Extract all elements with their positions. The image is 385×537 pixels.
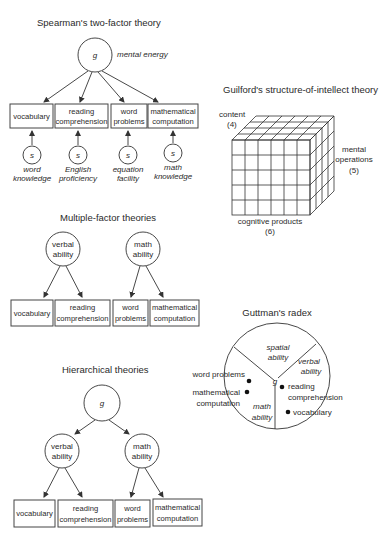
svg-text:word problems: word problems — [192, 370, 245, 379]
guilford-panel: Guilford's structure-of-intellect theory… — [219, 84, 378, 236]
svg-text:s: s — [171, 149, 175, 158]
g-factor-node: g — [78, 38, 112, 72]
svg-text:computation: computation — [152, 117, 193, 126]
sector-math-line2: ability — [252, 413, 273, 422]
svg-text:word: word — [120, 107, 137, 116]
operations-count: (5) — [349, 166, 359, 175]
svg-text:s: s — [126, 151, 130, 160]
spearman-box-reading-comprehension: reading comprehension — [55, 104, 108, 128]
svg-text:computation: computation — [157, 514, 198, 523]
svg-text:math: math — [134, 240, 152, 249]
sector-math-line1: math — [253, 402, 271, 411]
svg-text:mathematical: mathematical — [155, 503, 200, 512]
s-factor-math-knowledge: s math knowledge — [154, 131, 193, 181]
mental-energy-label: mental energy — [117, 50, 169, 59]
svg-text:English: English — [65, 165, 92, 174]
svg-text:comprehension: comprehension — [57, 314, 109, 323]
s-factor-word-knowledge: s word knowledge — [13, 131, 52, 183]
svg-text:proficiency: proficiency — [58, 174, 98, 183]
svg-text:s: s — [76, 151, 80, 160]
radex-point-word-problems: word problems — [192, 370, 252, 383]
svg-text:ability: ability — [133, 250, 153, 259]
h-verbal-ability-node: verbal ability — [45, 434, 79, 468]
content-label: content — [219, 110, 246, 119]
svg-text:mathematical: mathematical — [150, 107, 195, 116]
mf-box-vocabulary: vocabulary — [11, 300, 53, 326]
mf-box-reading-comprehension: reading comprehension — [55, 300, 110, 326]
svg-text:verbal: verbal — [51, 442, 73, 451]
mf-box-word-problems: word problems — [113, 300, 148, 326]
svg-text:vocabulary: vocabulary — [14, 309, 51, 318]
g-label: g — [93, 51, 98, 60]
operations-label-line2: operations — [335, 155, 372, 164]
s-factor-equation-facility: s equation facility — [113, 131, 144, 183]
svg-text:reading: reading — [70, 303, 95, 312]
multiple-factor-panel: Multiple-factor theories verbal ability … — [11, 212, 199, 326]
svg-text:reading: reading — [73, 504, 98, 513]
sector-spatial-line2: ability — [268, 353, 289, 362]
svg-text:equation: equation — [113, 165, 144, 174]
h-math-ability-node: math ability — [125, 434, 159, 468]
svg-text:verbal: verbal — [52, 240, 74, 249]
sector-spatial-line1: spatial — [266, 343, 289, 352]
mf-box-mathematical-computation: mathematical computation — [150, 300, 199, 326]
svg-text:vocabulary: vocabulary — [16, 509, 53, 518]
h-box-mathematical-computation: mathematical computation — [153, 499, 202, 526]
hierarchical-title: Hierarchical theories — [62, 364, 149, 375]
svg-text:ability: ability — [52, 452, 72, 461]
svg-text:s: s — [30, 151, 34, 160]
products-count: (6) — [265, 227, 275, 236]
guttman-panel: Guttman's radex g spatial ability verbal… — [192, 307, 343, 429]
svg-text:word: word — [121, 303, 138, 312]
svg-text:problems: problems — [113, 117, 144, 126]
svg-text:comprehension: comprehension — [60, 515, 112, 524]
spearman-box-word-problems: word problems — [111, 104, 147, 128]
svg-text:comprehension: comprehension — [56, 117, 108, 126]
svg-text:math: math — [133, 442, 151, 451]
guilford-title: Guilford's structure-of-intellect theory — [223, 84, 378, 95]
svg-text:reading: reading — [288, 382, 315, 391]
svg-text:computation: computation — [196, 399, 240, 408]
intelligence-theories-diagram: Spearman's two-factor theory g mental en… — [0, 0, 385, 537]
h-box-reading-comprehension: reading comprehension — [58, 500, 113, 527]
spearman-panel: Spearman's two-factor theory g mental en… — [10, 17, 198, 183]
sector-verbal-line1: verbal — [298, 357, 320, 366]
radex-point-vocabulary: vocabulary — [286, 408, 332, 417]
svg-text:g: g — [100, 399, 105, 408]
mf-verbal-ability-node: verbal ability — [46, 232, 80, 266]
s-factor-english-proficiency: s English proficiency — [58, 131, 98, 183]
svg-text:word: word — [23, 165, 41, 174]
svg-text:mathematical: mathematical — [152, 303, 197, 312]
svg-text:vocabulary: vocabulary — [293, 408, 332, 417]
svg-text:computation: computation — [154, 314, 195, 323]
svg-text:knowledge: knowledge — [154, 172, 193, 181]
svg-text:reading: reading — [69, 107, 94, 116]
svg-text:vocabulary: vocabulary — [13, 112, 50, 121]
spearman-box-vocabulary: vocabulary — [10, 104, 53, 128]
multiple-factor-title: Multiple-factor theories — [60, 212, 156, 223]
spearman-box-mathematical-computation: mathematical computation — [148, 104, 198, 128]
svg-text:word: word — [123, 504, 140, 513]
spearman-title: Spearman's two-factor theory — [37, 17, 161, 28]
guttman-title: Guttman's radex — [242, 307, 312, 318]
hierarchical-panel: Hierarchical theories g verbal ability m… — [14, 364, 202, 527]
svg-text:knowledge: knowledge — [13, 174, 52, 183]
svg-text:mathematical: mathematical — [192, 388, 240, 397]
h-box-word-problems: word problems — [115, 500, 150, 527]
radex-point-mathematical-computation: mathematical computation — [192, 388, 249, 408]
svg-text:ability: ability — [132, 452, 152, 461]
structure-of-intellect-cube — [232, 116, 334, 215]
svg-text:math: math — [164, 163, 182, 172]
svg-text:facility: facility — [117, 174, 140, 183]
h-g-node: g — [84, 385, 120, 421]
radex-point-reading-comprehension: reading comprehension — [280, 382, 343, 402]
sector-verbal-line2: ability — [301, 367, 322, 376]
svg-text:comprehension: comprehension — [288, 393, 343, 402]
content-count: (4) — [227, 120, 237, 129]
svg-text:problems: problems — [117, 515, 148, 524]
operations-label-line1: mental — [342, 145, 366, 154]
svg-text:ability: ability — [53, 250, 73, 259]
h-box-vocabulary: vocabulary — [14, 500, 55, 527]
radex-center-g: g — [273, 377, 278, 386]
mf-math-ability-node: math ability — [126, 232, 160, 266]
